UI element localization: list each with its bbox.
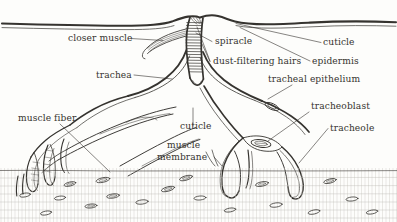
label-layer: closer muscle trachea muscle fiber spira… [18, 33, 374, 162]
muscle-fiber-upper-outline [66, 107, 176, 150]
diagram-canvas: closer muscle trachea muscle fiber spira… [0, 0, 397, 222]
cuticle-outer-line [2, 15, 396, 26]
label-closer-muscle: closer muscle [68, 33, 133, 43]
leader-tracheal-epithelium [268, 85, 292, 99]
tracheoblast-nucleus [251, 138, 272, 148]
label-tracheole: tracheole [330, 123, 374, 133]
closer-muscle-outline-2 [148, 36, 187, 54]
label-tracheoblast: tracheoblast [311, 101, 370, 111]
epidermis-line [2, 26, 396, 30]
label-epidermis: epidermis [312, 56, 359, 66]
label-tracheal-epithelium: tracheal epithelium [268, 74, 360, 84]
label-muscle-membrane-line2: membrane [157, 152, 207, 162]
trachea-branch-left-lower-outer [70, 96, 128, 125]
spiracle-trachea-svg: closer muscle trachea muscle fiber spira… [0, 0, 397, 222]
leader-dust-hairs [197, 27, 210, 61]
muscle-tissue-zone [0, 168, 397, 222]
closer-muscle-attachment [142, 47, 148, 59]
label-spiracle: spiracle [215, 36, 252, 46]
label-trachea: trachea [96, 70, 132, 80]
leader-muscle-membrane [214, 157, 222, 166]
label-cuticle-mid: cuticle [180, 121, 212, 131]
trachea-branch-left-lower-inner [77, 98, 135, 128]
label-dust-filtering-hairs: dust-filtering hairs [213, 56, 302, 66]
label-muscle-fiber: muscle fiber [18, 113, 77, 123]
muscle-membrane-marks [206, 150, 218, 166]
label-muscle-membrane-line1: muscle [167, 140, 200, 150]
tracheal-epithelium-nucleus [264, 101, 280, 113]
muscle-fiber-upper-midline [100, 114, 170, 135]
tracheole-stem-inner [200, 88, 239, 141]
label-cuticle-top: cuticle [323, 37, 355, 47]
leader-tracheole [299, 129, 328, 164]
tracheal-epithelium-inner [255, 101, 305, 135]
closer-muscle-striations [148, 31, 186, 51]
